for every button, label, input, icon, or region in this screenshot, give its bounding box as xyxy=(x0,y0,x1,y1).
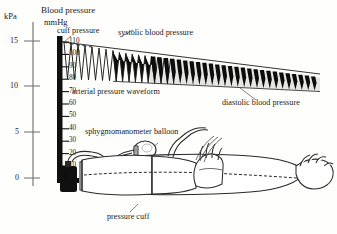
mmhg-tick-10: 10 xyxy=(69,162,76,169)
mmhg-tick-80: 80 xyxy=(69,75,76,82)
mmhg-tick-30: 30 xyxy=(69,137,76,144)
callout-systolic: systolic blood pressure xyxy=(118,29,193,37)
mmhg-tick-0: 0 xyxy=(69,174,73,181)
blood-pressure-diagram: kPa Blood pressure mmHg 15 10 5 0 110 10… xyxy=(0,0,337,234)
callout-pressure-cuff: pressure cuff xyxy=(107,213,149,221)
mmhg-tick-90: 90 xyxy=(69,63,76,70)
callout-diastolic: diastolic blood pressure xyxy=(222,99,300,107)
pressure-cuff xyxy=(82,155,196,195)
kpa-tick-5: 5 xyxy=(15,128,19,136)
kpa-tick-0: 0 xyxy=(15,174,19,182)
kpa-tick-15: 15 xyxy=(10,37,18,45)
waveform-density-band xyxy=(150,57,320,91)
mmhg-tick-100: 100 xyxy=(69,50,80,57)
mmhg-tick-40: 40 xyxy=(69,125,76,132)
callout-arterial-waveform: arterial pressure waveform xyxy=(72,88,160,96)
examiner-hand xyxy=(194,143,223,188)
kpa-tick-10: 10 xyxy=(10,82,18,90)
patient-hand xyxy=(296,154,333,189)
callout-cuff-pressure: cuff pressure xyxy=(57,27,99,35)
mmhg-tick-60: 60 xyxy=(69,100,76,107)
mmhg-tick-110: 110 xyxy=(69,38,80,45)
kpa-unit-label: kPa xyxy=(4,12,17,21)
mmhg-tick-50: 50 xyxy=(69,112,76,119)
callout-balloon: sphygmomanometer balloon xyxy=(85,128,178,136)
blood-pressure-title: Blood pressure xyxy=(41,6,95,15)
kpa-axis xyxy=(24,22,40,186)
mmhg-tick-20: 20 xyxy=(69,150,76,157)
